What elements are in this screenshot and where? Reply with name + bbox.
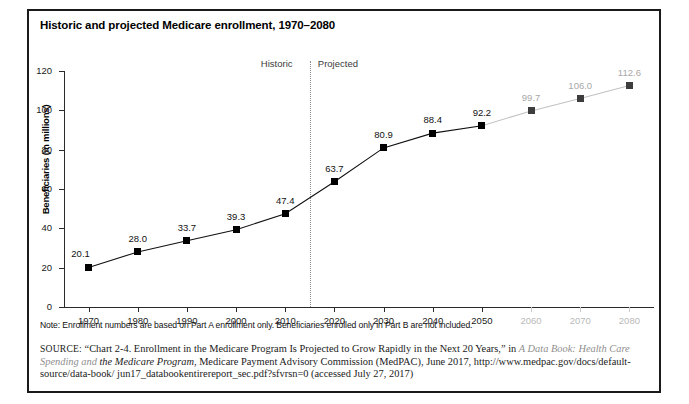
x-tick-mark xyxy=(629,307,630,312)
data-point-label: 92.2 xyxy=(459,107,505,118)
data-point-marker xyxy=(331,178,338,185)
source-line-3: jun17_databookentirereport_sec.pdf?sfvrs… xyxy=(117,368,413,379)
y-tick-label: 0 xyxy=(26,301,52,312)
data-point-marker xyxy=(577,95,584,102)
x-tick-mark xyxy=(433,307,434,312)
data-point-label: 33.7 xyxy=(164,222,210,233)
y-tick-label: 100 xyxy=(26,104,52,115)
y-tick-mark xyxy=(59,307,64,308)
y-tick-mark xyxy=(59,268,64,269)
data-point-marker xyxy=(134,248,141,255)
data-point-marker xyxy=(85,264,92,271)
x-tick-mark xyxy=(334,307,335,312)
y-tick-mark xyxy=(59,150,64,151)
x-tick-mark xyxy=(138,307,139,312)
y-tick-mark xyxy=(59,110,64,111)
x-tick-mark xyxy=(89,307,90,312)
y-tick-mark xyxy=(59,71,64,72)
y-tick-label: 40 xyxy=(26,222,52,233)
source-label: SOURCE: xyxy=(40,343,82,354)
data-point-label: 112.6 xyxy=(606,67,652,78)
data-point-label: 47.4 xyxy=(262,195,308,206)
data-point-marker xyxy=(380,144,387,151)
y-tick-mark xyxy=(59,189,64,190)
data-point-marker xyxy=(478,122,485,129)
x-tick-mark xyxy=(236,307,237,312)
data-point-label: 28.0 xyxy=(115,233,161,244)
x-tick-mark xyxy=(285,307,286,312)
data-point-label: 99.7 xyxy=(508,92,554,103)
y-tick-mark xyxy=(59,228,64,229)
x-tick-mark xyxy=(580,307,581,312)
chart-plot-area: Beneficiaries (in millions) Historic Pro… xyxy=(29,49,659,314)
x-tick-mark xyxy=(384,307,385,312)
data-point-label: 88.4 xyxy=(410,114,456,125)
source-italic-2: the Medicare Program xyxy=(99,356,193,367)
chart-source: SOURCE: “Chart 2-4. Enrollment in the Me… xyxy=(40,343,654,381)
data-point-label: 106.0 xyxy=(557,80,603,91)
data-point-marker xyxy=(183,237,190,244)
data-point-marker xyxy=(429,130,436,137)
x-tick-mark xyxy=(187,307,188,312)
y-tick-label: 60 xyxy=(26,183,52,194)
data-point-marker xyxy=(528,107,535,114)
y-tick-label: 80 xyxy=(26,144,52,155)
chart-note: Note: Enrollment numbers are based on Pa… xyxy=(40,320,652,330)
data-point-label: 63.7 xyxy=(311,163,357,174)
y-tick-label: 20 xyxy=(26,262,52,273)
data-point-marker xyxy=(282,210,289,217)
source-line-1: “Chart 2-4. Enrollment in the Medicare P… xyxy=(85,343,517,354)
data-point-marker xyxy=(233,226,240,233)
x-tick-mark xyxy=(531,307,532,312)
data-point-label: 39.3 xyxy=(213,211,259,222)
data-point-label: 80.9 xyxy=(361,129,407,140)
x-tick-mark xyxy=(482,307,483,312)
y-tick-label: 120 xyxy=(26,65,52,76)
figure-panel: Historic and projected Medicare enrollme… xyxy=(27,9,661,393)
page-title: Historic and projected Medicare enrollme… xyxy=(40,19,335,31)
data-point-marker xyxy=(626,82,633,89)
data-point-label: 20.1 xyxy=(58,248,104,259)
